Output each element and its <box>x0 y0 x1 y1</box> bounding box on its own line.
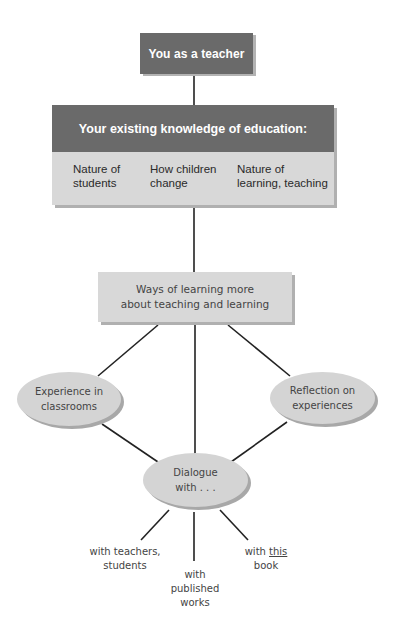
connector-ways-to-experience <box>98 325 158 376</box>
connector-dialogue-to-teachers <box>141 510 169 540</box>
reflection-line: Reflection on <box>290 383 355 398</box>
knowledge-item-line: learning, teaching <box>237 176 328 190</box>
node-existing-knowledge: Your existing knowledge of education: Na… <box>52 105 334 205</box>
node-dialogue-with: Dialogue with . . . <box>143 453 248 507</box>
dialogue-line: with . . . <box>175 480 215 495</box>
connector-experience-to-dialogue <box>102 424 158 462</box>
leaf-line: with this <box>228 545 304 559</box>
connector-reflection-to-dialogue <box>231 422 287 462</box>
leaf-teachers-students: with teachers, students <box>84 545 166 573</box>
leaf-prefix: with <box>245 546 269 557</box>
leaf-line: book <box>228 559 304 573</box>
existing-knowledge-body: Nature of students How children change N… <box>52 152 334 205</box>
experience-line: Experience in <box>35 384 103 399</box>
leaf-published-works: with published works <box>160 568 230 610</box>
knowledge-item-learning-teaching: Nature of learning, teaching <box>237 162 328 190</box>
leaf-line: with <box>160 568 230 582</box>
connector-dialogue-to-book <box>220 510 248 540</box>
node-you-as-teacher-label: You as a teacher <box>148 47 244 61</box>
reflection-line: experiences <box>292 398 353 413</box>
leaf-this-book: with this book <box>228 545 304 573</box>
connector-ways-to-reflection <box>228 325 290 376</box>
node-reflection-on-experiences: Reflection on experiences <box>270 372 375 424</box>
leaf-line: published <box>160 582 230 596</box>
knowledge-item-line: How children <box>150 162 216 176</box>
ways-of-learning-line: about teaching and learning <box>121 297 270 312</box>
leaf-emphasis: this <box>269 546 287 557</box>
knowledge-item-line: Nature of <box>73 162 120 176</box>
dialogue-line: Dialogue <box>173 465 217 480</box>
leaf-line: students <box>84 559 166 573</box>
knowledge-item-children-change: How children change <box>150 162 216 190</box>
ways-of-learning-line: Ways of learning more <box>136 282 254 297</box>
concept-diagram: You as a teacher Your existing knowledge… <box>0 0 398 637</box>
node-you-as-teacher: You as a teacher <box>140 33 253 74</box>
existing-knowledge-title: Your existing knowledge of education: <box>79 122 307 136</box>
leaf-line: works <box>160 596 230 610</box>
node-experience-in-classrooms: Experience in classrooms <box>17 372 121 426</box>
node-ways-of-learning: Ways of learning more about teaching and… <box>98 272 292 322</box>
experience-line: classrooms <box>41 399 97 414</box>
knowledge-item-line: Nature of <box>237 162 328 176</box>
knowledge-item-line: students <box>73 176 120 190</box>
knowledge-item-students: Nature of students <box>73 162 120 190</box>
leaf-line: with teachers, <box>84 545 166 559</box>
existing-knowledge-header: Your existing knowledge of education: <box>52 105 334 152</box>
knowledge-item-line: change <box>150 176 216 190</box>
